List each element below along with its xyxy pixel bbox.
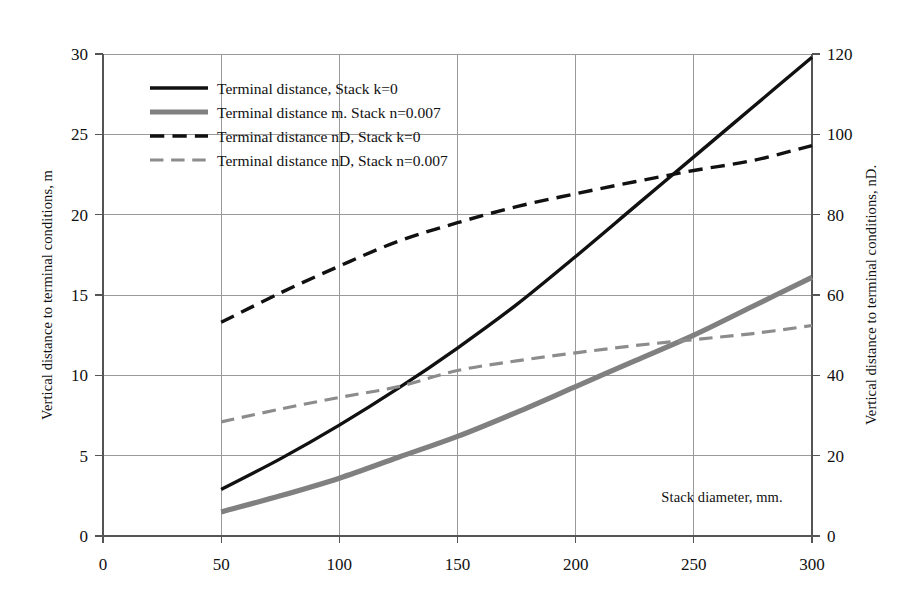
x-tick-label: 50 — [213, 555, 230, 574]
y-tick-label: 25 — [71, 125, 88, 144]
y-tick-label: 5 — [80, 447, 89, 466]
y2-tick-label: 40 — [827, 366, 844, 385]
chart-canvas: 050100150200250300 051015202530 02040608… — [0, 0, 918, 601]
x-tick-label: 150 — [445, 555, 471, 574]
legend-label-3: Terminal distance nD, Stack n=0.007 — [217, 152, 448, 169]
y2-axis-title: Vertical distance to terminal conditions… — [863, 165, 879, 425]
y-tick-label: 0 — [80, 527, 89, 546]
x-tick-label: 0 — [99, 555, 108, 574]
x-tick-label: 250 — [681, 555, 707, 574]
y-tick-label: 30 — [71, 45, 88, 64]
y-tick-label: 20 — [71, 206, 88, 225]
y2-tick-label: 60 — [827, 286, 844, 305]
chart-background — [0, 0, 918, 601]
legend-label-0: Terminal distance, Stack k=0 — [217, 80, 398, 97]
legend-label-1: Terminal distance m. Stack n=0.007 — [217, 104, 441, 121]
y-tick-label: 15 — [71, 286, 88, 305]
y-axis-title: Vertical distance to terminal conditions… — [39, 169, 55, 420]
y2-tick-label: 100 — [827, 125, 853, 144]
y2-tick-label: 120 — [827, 45, 853, 64]
x-tick-label: 300 — [799, 555, 825, 574]
chart-figure: 050100150200250300 051015202530 02040608… — [0, 0, 918, 601]
legend-label-2: Terminal distance nD, Stack k=0 — [217, 128, 421, 145]
y2-tick-label: 80 — [827, 206, 844, 225]
x-axis-title: Stack diameter, mm. — [661, 489, 782, 505]
y2-tick-label: 0 — [827, 527, 836, 546]
x-tick-label: 200 — [563, 555, 589, 574]
x-tick-label: 100 — [327, 555, 353, 574]
y-tick-label: 10 — [71, 366, 88, 385]
y2-tick-label: 20 — [827, 447, 844, 466]
